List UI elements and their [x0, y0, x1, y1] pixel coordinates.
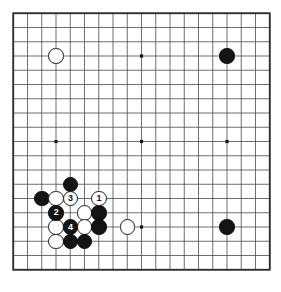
stone-white[interactable]	[48, 48, 64, 64]
numbered-stone-black[interactable]: 2	[48, 205, 64, 221]
stone-white[interactable]	[120, 219, 136, 235]
stone-black[interactable]	[34, 191, 50, 207]
stone-white[interactable]	[48, 219, 64, 235]
stone-black[interactable]	[63, 177, 79, 193]
stone-white[interactable]	[48, 191, 64, 207]
stone-white[interactable]	[77, 219, 93, 235]
move-number-label: 3	[68, 194, 73, 203]
numbered-stone-black[interactable]: 4	[63, 219, 79, 235]
stone-black[interactable]	[219, 219, 235, 235]
stone-black[interactable]	[63, 234, 79, 250]
stone-white[interactable]	[48, 234, 64, 250]
move-number-label: 2	[54, 208, 59, 217]
numbered-stone-white[interactable]: 3	[63, 191, 79, 207]
go-board-diagram: 3124	[0, 0, 281, 292]
stone-black[interactable]	[91, 219, 107, 235]
stone-black[interactable]	[219, 48, 235, 64]
numbered-stone-white[interactable]: 1	[91, 191, 107, 207]
stone-white[interactable]	[77, 205, 93, 221]
stone-layer: 3124	[0, 0, 281, 292]
stone-black[interactable]	[91, 205, 107, 221]
move-number-label: 1	[96, 194, 101, 203]
stone-black[interactable]	[77, 234, 93, 250]
move-number-label: 4	[68, 223, 73, 232]
